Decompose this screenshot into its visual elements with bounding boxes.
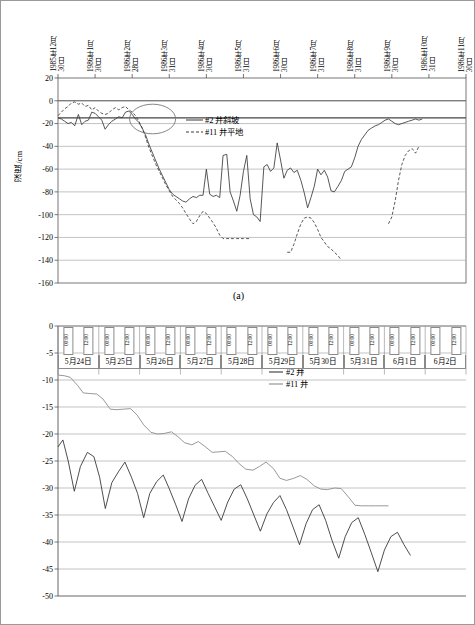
chart-a-x-tick-label: 1986年4月30日 [199, 40, 214, 72]
chart-a-series-line [388, 146, 418, 223]
chart-b-y-tick-label: -30 [42, 484, 53, 493]
chart-a-x-tick-label: 1985年12月30日 [51, 36, 66, 72]
chart-b-legend-label: #11 井 [286, 379, 308, 389]
chart-a-x-tick-label: 1986年10月31日 [422, 36, 437, 72]
chart-b-date-label: 5月29日 [262, 355, 303, 369]
chart-a-y-tick-label: -20 [42, 119, 53, 128]
chart-b-hour-label: 00:00 [185, 327, 195, 355]
chart-b-y-tick-label: -40 [42, 538, 53, 547]
chart-a-y-axis-label: 深度/cm [13, 151, 25, 182]
chart-a-x-tick-label: 1986年11月30日 [459, 37, 474, 72]
chart-b-hour-label: 12:00 [165, 327, 175, 355]
chart-a-x-tick-label: 1986年7月31日 [311, 40, 326, 72]
chart-b-hour-label: 00:00 [430, 327, 440, 355]
chart-b-date-label: 5月30日 [303, 355, 344, 369]
chart-a-x-tick-label: 1986年8月31日 [348, 40, 363, 72]
figure-page: 深度/cm 200-20-40-60-80-100-120-140-160#2 … [0, 0, 475, 625]
chart-a-legend-label: #11 井平地 [205, 127, 244, 137]
chart-b-y-tick-label: -15 [42, 403, 53, 412]
chart-a-y-tick-label: -80 [42, 188, 53, 197]
chart-b-date-label: 5月28日 [221, 355, 262, 369]
chart-b-y-tick-label: -10 [42, 376, 53, 385]
chart-b-panel: 深度/cm 0-5-10-15-20-25-30-35-40-45-50#2 井… [1, 306, 475, 625]
chart-b-date-label: 5月26日 [140, 355, 181, 369]
chart-a-y-tick-label: 20 [45, 74, 53, 83]
chart-b-y-tick-label: -50 [42, 592, 53, 601]
chart-b-hour-label: 00:00 [226, 327, 236, 355]
chart-b-hour-label: 12:00 [328, 327, 338, 355]
chart-b-date-label: 6月2日 [425, 355, 466, 369]
chart-b-hour-label: 12:00 [83, 327, 93, 355]
chart-a-x-tick-label: 1986年1月30日 [88, 40, 103, 72]
chart-b-date-label: 5月25日 [99, 355, 140, 369]
chart-b-hour-label: 12:00 [410, 327, 420, 355]
chart-a-x-tick-label: 1986年3月31日 [162, 40, 177, 72]
chart-b-hour-label: 12:00 [206, 327, 216, 355]
chart-b-date-label: 6月1日 [384, 355, 425, 369]
chart-b-date-label: 5月24日 [58, 355, 99, 369]
chart-a-plot-frame [58, 78, 466, 283]
chart-b-hour-label: 00:00 [267, 327, 277, 355]
chart-b-hour-label: 00:00 [389, 327, 399, 355]
chart-a-x-tick-label: 1986年9月30日 [385, 40, 400, 72]
chart-b-hour-label: 00:00 [349, 327, 359, 355]
chart-a-y-tick-label: -160 [38, 279, 53, 288]
chart-a-x-tick-label: 1986年5月31日 [236, 40, 251, 72]
chart-b-y-tick-label: -20 [42, 430, 53, 439]
chart-b-y-tick-label: 0 [49, 322, 53, 331]
chart-b-date-label: 5月27日 [180, 355, 221, 369]
chart-a-legend-label: #2 井斜坡 [205, 115, 240, 125]
chart-b-series-line [58, 375, 388, 506]
chart-a-caption: (a) [1, 290, 475, 301]
chart-a-x-tick-label: 1986年2月28日 [125, 40, 140, 72]
chart-b-hour-label: 00:00 [63, 327, 73, 355]
chart-b-y-tick-label: -45 [42, 565, 53, 574]
chart-a-y-tick-label: 0 [49, 97, 53, 106]
chart-b-y-tick-label: -5 [46, 349, 53, 358]
chart-a-y-tick-label: -100 [38, 211, 53, 220]
chart-b-y-tick-label: -35 [42, 511, 53, 520]
chart-b-hour-label: 00:00 [145, 327, 155, 355]
chart-a-y-tick-label: -40 [42, 142, 53, 151]
chart-a-panel: 深度/cm 200-20-40-60-80-100-120-140-160#2 … [1, 1, 475, 306]
chart-a-y-tick-label: -140 [38, 256, 53, 265]
chart-b-date-label: 5月31日 [344, 355, 385, 369]
chart-b-hour-label: 00:00 [104, 327, 114, 355]
chart-b-hour-label: 12:00 [287, 327, 297, 355]
chart-b-hour-label: 12:00 [247, 327, 257, 355]
chart-b-hour-label: 12:00 [124, 327, 134, 355]
chart-a-y-tick-label: -60 [42, 165, 53, 174]
chart-a-series-line [287, 217, 341, 260]
chart-a-x-tick-label: 1986年6月30日 [274, 40, 289, 72]
chart-b-hour-label: 12:00 [451, 327, 461, 355]
chart-b-hour-label: 00:00 [308, 327, 318, 355]
chart-b-y-tick-label: -25 [42, 457, 53, 466]
chart-b-hour-label: 12:00 [369, 327, 379, 355]
chart-a-ellipse-annotation [130, 104, 176, 134]
chart-a-y-tick-label: -120 [38, 233, 53, 242]
